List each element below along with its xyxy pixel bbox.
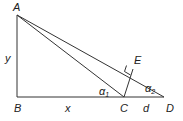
label-y: y (4, 52, 12, 64)
segment-AC (17, 15, 124, 97)
label-x: x (64, 102, 71, 114)
triangle-diagram: A B C D E y x d α1 α2 (0, 0, 183, 121)
segment-CE (124, 69, 133, 97)
label-A: A (12, 1, 20, 13)
label-alpha1: α1 (99, 85, 109, 98)
right-angle-marker-E (125, 66, 131, 76)
label-B: B (14, 102, 21, 114)
label-d: d (143, 102, 150, 114)
label-D: D (166, 102, 174, 114)
label-C: C (120, 102, 128, 114)
segment-AD (17, 15, 164, 97)
label-alpha2: α2 (145, 82, 155, 95)
label-E: E (134, 54, 142, 66)
